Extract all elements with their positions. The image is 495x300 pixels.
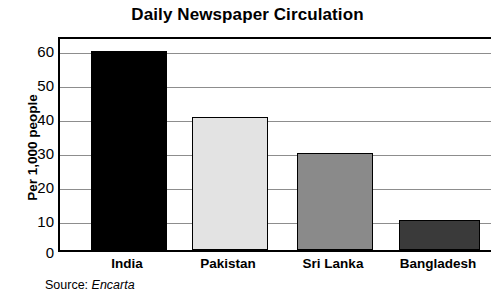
- x-tick-label-pakistan: Pakistan: [172, 255, 284, 273]
- x-axis-tick-labels: India Pakistan Sri Lanka Bangladesh: [58, 255, 491, 275]
- bar-india[interactable]: [91, 51, 167, 250]
- y-tick-label: 0: [22, 245, 54, 260]
- x-tick-label-bangladesh: Bangladesh: [380, 255, 495, 273]
- bar-pakistan[interactable]: [192, 117, 268, 250]
- chart-figure: Daily Newspaper Circulation Per 1,000 pe…: [0, 0, 495, 300]
- y-axis-tick-labels: 60 50 40 30 20 10 0: [22, 37, 54, 252]
- bar-bangladesh[interactable]: [399, 220, 480, 250]
- plot-area: [58, 37, 491, 252]
- chart-title: Daily Newspaper Circulation: [0, 4, 495, 26]
- y-tick-label: 60: [22, 44, 54, 59]
- y-tick-label: 30: [22, 146, 54, 161]
- source-label: Source:: [45, 278, 88, 292]
- y-tick-label: 50: [22, 78, 54, 93]
- y-tick-label: 20: [22, 180, 54, 195]
- y-tick-label: 10: [22, 214, 54, 229]
- y-tick-label: 40: [22, 112, 54, 127]
- bars-layer: [60, 39, 491, 250]
- source-value: Encarta: [92, 278, 135, 292]
- x-tick-label-sri-lanka: Sri Lanka: [277, 255, 389, 273]
- bar-sri-lanka[interactable]: [297, 153, 373, 250]
- source-note: Source: Encarta: [45, 277, 135, 293]
- x-tick-label-india: India: [71, 255, 183, 273]
